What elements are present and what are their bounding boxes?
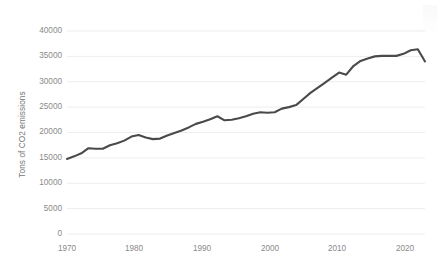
co2-emissions-line-chart: Tons of CO2 emissions 40000 35000 30000 … (0, 0, 443, 268)
x-tick-label: 2000 (261, 245, 279, 253)
x-tick-label: 1980 (125, 245, 143, 253)
x-tick-label: 1970 (58, 245, 76, 253)
x-axis-tick-labels: 1970 1980 1990 2000 2010 2020 (0, 0, 443, 268)
x-tick-label: 2010 (328, 245, 346, 253)
x-tick-label: 2020 (396, 245, 414, 253)
x-tick-label: 1990 (193, 245, 211, 253)
corner-artifact (423, 5, 437, 35)
